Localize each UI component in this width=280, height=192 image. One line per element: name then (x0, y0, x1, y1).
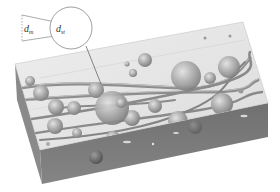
microstructure-figure: dm dst (0, 0, 280, 192)
fiber-cut-dot (152, 143, 154, 145)
inset-schematic: dm dst (22, 7, 92, 49)
pore-dot (239, 89, 244, 94)
pore-dot (204, 37, 207, 40)
neck-bottom-edge (22, 36, 55, 41)
sphere-cut (188, 120, 202, 134)
sphere-small-inner (116, 98, 126, 108)
label-d-m: dm (24, 23, 34, 35)
sphere (125, 62, 130, 67)
sphere (67, 101, 81, 115)
sphere (148, 99, 162, 113)
sphere (25, 76, 35, 86)
sphere (218, 56, 240, 78)
sphere (129, 69, 137, 77)
fiber-cut (123, 141, 131, 143)
fiber-cut (173, 132, 179, 134)
sphere-large (95, 91, 129, 125)
sphere-large (171, 61, 201, 91)
sphere (33, 85, 49, 101)
pore-dot (229, 35, 232, 38)
sphere (47, 118, 63, 134)
sphere (48, 99, 64, 115)
fiber-cut (241, 115, 248, 117)
neck-top-edge (22, 15, 55, 22)
sphere-cut (89, 150, 103, 164)
sphere (138, 53, 152, 67)
pore-dot (46, 142, 50, 146)
sphere (204, 72, 216, 84)
sphere (72, 128, 82, 138)
